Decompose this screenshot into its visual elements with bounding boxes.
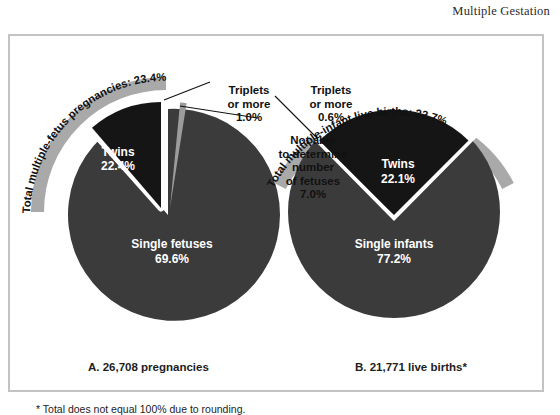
figure-footnote: * Total does not equal 100% due to round… xyxy=(36,403,245,415)
chart-a-single-value: 69.6% xyxy=(155,252,189,266)
chart-b-twins-label: Twins xyxy=(381,157,414,171)
chart-b-group: Twins 22.1% Single infants 77.2% Total m… xyxy=(265,96,508,318)
chart-b-twins-value: 22.1% xyxy=(381,172,415,186)
chart-b-single-value: 77.2% xyxy=(377,252,411,266)
callout-triplets-or-more-right: Triplets or more 0.6% xyxy=(295,84,367,125)
figure-frame: Twins 22.4% Single fetuses 69.6% Total m… xyxy=(8,34,544,392)
running-head: Multiple Gestation xyxy=(452,4,550,19)
callout-not-able-to-determine: Not able to determine number of fetuses … xyxy=(258,134,368,202)
chart-a-single-label: Single fetuses xyxy=(131,237,213,251)
chart-b-caption: B. 21,771 live births* xyxy=(355,361,467,373)
chart-a-twins-label: Twins xyxy=(101,145,134,159)
chart-a-twins-value: 22.4% xyxy=(101,159,135,173)
chart-a-leader-triplets xyxy=(164,82,210,100)
callout-triplets-or-more-left: Triplets or more 1.0% xyxy=(213,84,285,125)
chart-b-single-label: Single infants xyxy=(355,237,434,251)
chart-a-caption: A. 26,708 pregnancies xyxy=(88,361,209,373)
